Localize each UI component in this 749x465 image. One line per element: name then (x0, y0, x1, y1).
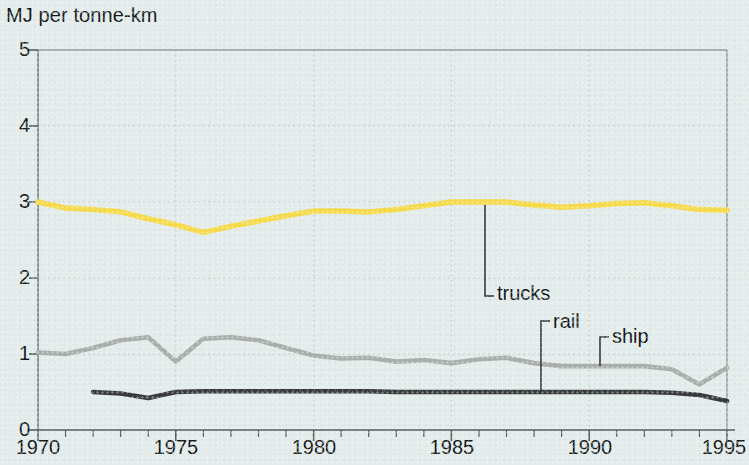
energy-intensity-line-chart: MJ per tonne-km 5 4 3 2 1 0 1970 1975 19… (0, 0, 749, 465)
y-tick-label-1: 1 (4, 342, 30, 365)
x-tick-label-1980: 1980 (279, 436, 349, 459)
y-axis-title: MJ per tonne-km (6, 4, 158, 27)
series-label-ship: ship (612, 325, 649, 348)
y-tick-label-3: 3 (4, 190, 30, 213)
x-tick-label-1975: 1975 (141, 436, 211, 459)
plot-area (0, 0, 749, 465)
series-lines (38, 202, 727, 401)
y-tick-label-2: 2 (4, 266, 30, 289)
gridlines (38, 50, 727, 430)
series-label-rail: rail (553, 310, 580, 333)
axis-ticks (29, 50, 727, 441)
y-tick-label-5: 5 (4, 38, 30, 61)
x-tick-label-1970: 1970 (3, 436, 73, 459)
series-label-trucks: trucks (497, 282, 550, 305)
x-tick-label-1995: 1995 (689, 436, 749, 459)
x-tick-label-1990: 1990 (555, 436, 625, 459)
x-tick-label-1985: 1985 (417, 436, 487, 459)
y-tick-label-4: 4 (4, 114, 30, 137)
axis-lines (38, 50, 735, 430)
